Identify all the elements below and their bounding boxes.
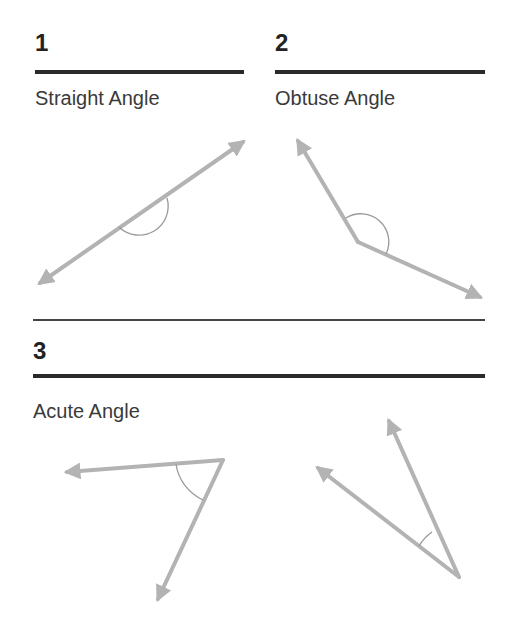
obtuse-angle-ray-upper <box>298 141 358 242</box>
obtuse-angle-ray-lower <box>358 242 480 297</box>
acute-angle-2-figure <box>318 421 459 577</box>
acute-angle-1-figure <box>67 460 223 599</box>
acute-angle-2-ray-left <box>318 468 459 577</box>
obtuse-angle-figure <box>298 141 480 297</box>
acute-angle-1-ray-down <box>158 460 223 599</box>
straight-angle-figure <box>40 142 243 283</box>
straight-angle-arc <box>119 198 168 235</box>
angle-figures <box>0 0 505 622</box>
acute-angle-1-arc <box>176 464 203 500</box>
acute-angle-2-arc <box>419 532 432 546</box>
straight-angle-ray <box>40 142 243 283</box>
acute-angle-2-ray-up <box>389 421 459 577</box>
acute-angle-1-ray-horizontal <box>67 460 223 472</box>
